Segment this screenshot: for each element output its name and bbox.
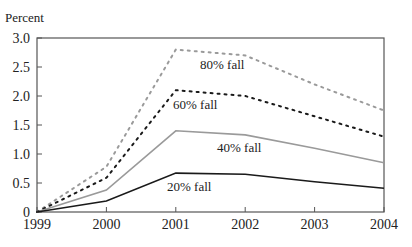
x-axis-ticks: 199920002001200220032004: [23, 207, 398, 232]
x-tick-label: 1999: [23, 217, 51, 232]
y-tick-label: 3.0: [13, 31, 31, 46]
x-tick-label: 2004: [370, 217, 398, 232]
y-tick-label: 1.0: [13, 147, 31, 162]
label-40-fall: 40% fall: [217, 140, 262, 155]
y-tick-label: 0.5: [13, 176, 31, 191]
y-tick-label: 2.5: [13, 60, 31, 75]
series-40-fall: [37, 131, 384, 212]
y-axis-label: Percent: [5, 10, 44, 25]
x-tick-label: 2000: [92, 217, 120, 232]
x-tick-label: 2003: [301, 217, 329, 232]
label-80-fall: 80% fall: [200, 57, 245, 72]
x-tick-label: 2001: [162, 217, 190, 232]
x-tick-label: 2002: [231, 217, 259, 232]
y-tick-label: 2.0: [13, 89, 31, 104]
line-chart: Percent 00.51.01.52.02.53.0 199920002001…: [0, 0, 412, 247]
y-tick-label: 1.5: [13, 118, 31, 133]
label-60-fall: 60% fall: [173, 97, 218, 112]
label-20-fall: 20% fall: [167, 179, 212, 194]
